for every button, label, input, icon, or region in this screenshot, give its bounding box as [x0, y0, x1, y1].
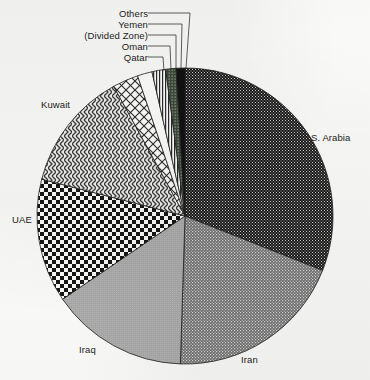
pie-chart: S. Arabia Iran Iraq UAE Kuwait Others Ye… — [0, 0, 370, 380]
pie-slices-group — [37, 68, 333, 364]
slice-label-iraq: Iraq — [79, 344, 96, 355]
callout-label-yemen: Yemen — [48, 19, 148, 30]
callout-label-qatar: Qatar — [48, 52, 148, 63]
leader-line-oman — [148, 46, 171, 70]
slice-label-kuwait: Kuwait — [41, 99, 70, 110]
leader-line-qatar — [148, 57, 164, 71]
slice-label-uae: UAE — [12, 214, 32, 225]
slice-label-s-arabia: S. Arabia — [311, 132, 350, 143]
callout-label-others: Others — [48, 8, 148, 19]
slice-label-iran: Iran — [241, 354, 258, 365]
callout-label-oman: Oman — [48, 41, 148, 52]
callout-label-divided-zone: (Divided Zone) — [28, 30, 148, 41]
leader-line-others — [148, 13, 190, 68]
callout-leader-lines — [148, 13, 190, 71]
leader-line-divided-zone — [148, 35, 176, 69]
